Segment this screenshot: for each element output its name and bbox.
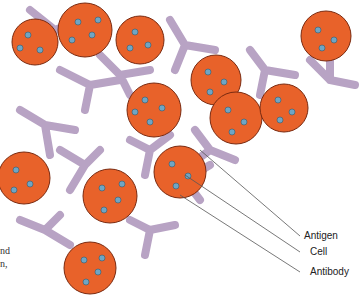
label-antibody: Antibody bbox=[310, 266, 349, 277]
label-antigen: Antigen bbox=[304, 230, 338, 241]
label-cell: Cell bbox=[310, 246, 327, 257]
antigen-antibody-diagram bbox=[0, 0, 361, 299]
caption-fragment-1: nd bbox=[0, 244, 10, 257]
caption-fragment-2: n, bbox=[0, 257, 8, 270]
